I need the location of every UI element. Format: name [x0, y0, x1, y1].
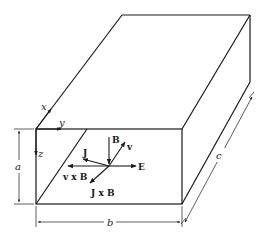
- v-vector: [109, 142, 125, 166]
- dimension-b-label: b: [107, 217, 113, 228]
- v-label: v: [126, 142, 133, 152]
- x-axis-arrow: [36, 109, 51, 129]
- JxB-label: J x B: [90, 188, 115, 198]
- field-vectors: B v J E v x B J x B: [62, 135, 145, 198]
- vxB-label: v x B: [62, 172, 88, 182]
- coordinate-axes: x y z: [36, 101, 65, 159]
- B-label: B: [112, 135, 120, 145]
- mhd-channel-diagram: x y z a b c B v J E v: [0, 0, 264, 239]
- y-axis-label: y: [58, 117, 65, 128]
- z-axis-label: z: [37, 148, 44, 159]
- dimension-a: a: [13, 129, 34, 204]
- x-axis-label: x: [41, 101, 47, 112]
- J-vector: [83, 159, 109, 166]
- J-label: J: [82, 148, 87, 158]
- dimension-c-label: c: [216, 150, 222, 161]
- JxB-vector: [90, 166, 109, 183]
- top-right-edge: [182, 15, 250, 129]
- bottom-right-edge: [182, 82, 250, 204]
- dimension-a-label: a: [15, 161, 21, 172]
- dimension-b: b: [36, 206, 182, 228]
- E-label: E: [138, 162, 145, 172]
